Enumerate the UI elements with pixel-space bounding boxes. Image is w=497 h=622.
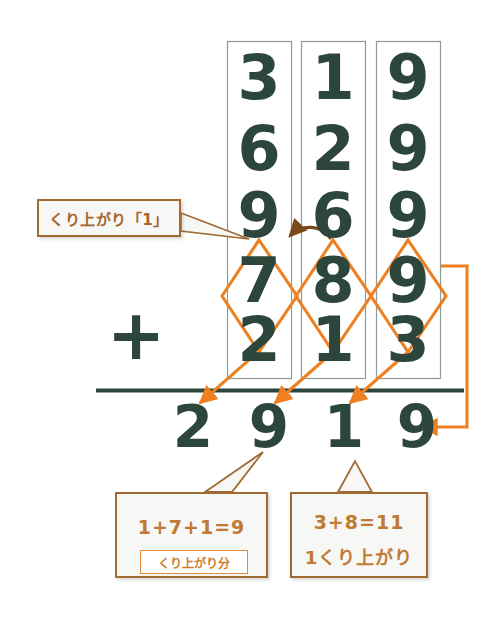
digit-r2-tens: 2 (300, 118, 366, 180)
digit-r3-tens: 6 (300, 185, 366, 247)
digit-r2-hundreds: 6 (226, 118, 292, 180)
answer-digit-tens: 1 (313, 398, 375, 456)
answer-digit-ones: 9 (386, 398, 448, 456)
callout-carry-label: くり上がり「1」 (37, 199, 181, 237)
digit-r3-hundreds: 9 (226, 185, 292, 247)
ones-equation: 1+7+1=9 (117, 516, 266, 538)
digit-r5-hundreds: 2 (226, 309, 292, 371)
callout-ones-column: 1+7+1=9 くり上がり分 (115, 492, 268, 578)
tens-note: 1くり上がり (292, 543, 426, 569)
callout-tens-leader (338, 461, 372, 492)
digit-r3-ones: 9 (375, 185, 441, 247)
tens-equation: 3+8=11 (292, 511, 426, 533)
worksheet-figure: 3 1 9 6 2 9 9 6 9 7 8 9 2 1 3 + 2 9 1 9 … (0, 0, 497, 622)
digit-r1-ones: 9 (375, 47, 441, 109)
digit-r1-hundreds: 3 (226, 47, 292, 109)
plus-operator: + (104, 300, 168, 370)
digit-r2-ones: 9 (375, 118, 441, 180)
digit-r5-tens: 1 (300, 309, 366, 371)
digit-r1-tens: 1 (300, 47, 366, 109)
digit-r5-ones: 3 (375, 309, 441, 371)
ones-inner-tag: くり上がり分 (140, 550, 248, 574)
answer-digit-thousands: 2 (162, 398, 224, 456)
answer-digit-hundreds: 9 (238, 398, 300, 456)
callout-tens-column: 3+8=11 1くり上がり (290, 492, 428, 578)
